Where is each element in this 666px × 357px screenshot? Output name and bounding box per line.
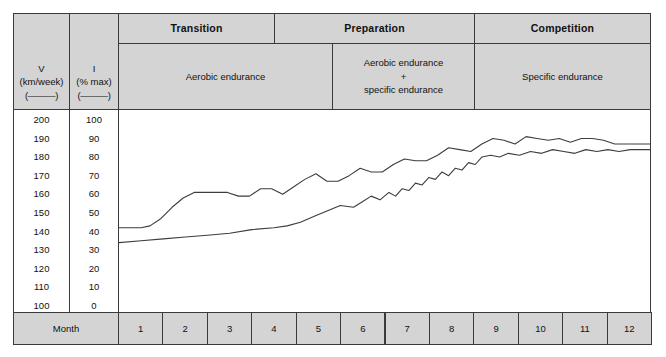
month-row: Month 123456789101112 [13,312,651,345]
axis-header-v-unit: (km/week) [20,75,64,89]
axis-tick-v-120: 120 [14,262,69,273]
month-cell-4: 4 [251,312,296,345]
month-cell-10: 10 [518,312,563,345]
period-transition: Transition [118,13,275,44]
axis-tick-i-0: 0 [70,300,118,311]
axis-tick-v-130: 130 [14,244,69,255]
header-grid: V (km/week) (———) I (% max) (———) Transi… [13,13,651,110]
axis-tick-v-200: 200 [14,114,69,125]
month-cell-7: 7 [385,312,430,345]
axis-header-v: V (km/week) (———) [13,13,70,110]
axis-tick-v-170: 170 [14,169,69,180]
month-cell-5: 5 [296,312,341,345]
focus-specific-endurance: Specific endurance [474,43,651,110]
axis-tick-i-10: 10 [70,281,118,292]
chart-svg [119,110,650,312]
month-cell-6: 6 [340,312,385,345]
axis-header-v-marker: (———) [25,89,58,103]
axis-column-i: 1009080706050403020100 [69,109,119,313]
axis-tick-v-100: 100 [14,300,69,311]
series-line-v [119,137,650,228]
axis-column-v: 200190180170160150140130120110100 [13,109,70,313]
focus-aerobic-plus-specific: Aerobic endurance + specific endurance [332,43,475,110]
axis-tick-i-100: 100 [70,114,118,125]
axis-tick-i-20: 20 [70,262,118,273]
month-cell-12: 12 [607,312,652,345]
axis-header-v-name: V [38,62,44,76]
axis-header-i: I (% max) (———) [69,13,119,110]
axis-tick-i-60: 60 [70,188,118,199]
focus-aerobic-endurance: Aerobic endurance [118,43,333,110]
month-cell-11: 11 [562,312,607,345]
axis-tick-i-30: 30 [70,244,118,255]
figure-root: V (km/week) (———) I (% max) (———) Transi… [0,0,666,357]
axis-tick-v-150: 150 [14,207,69,218]
axis-tick-v-180: 180 [14,151,69,162]
period-competition: Competition [474,13,651,44]
month-cell-9: 9 [473,312,518,345]
axis-tick-i-40: 40 [70,225,118,236]
month-cell-3: 3 [207,312,252,345]
axis-tick-i-50: 50 [70,207,118,218]
period-preparation: Preparation [274,13,475,44]
axis-tick-v-110: 110 [14,281,69,292]
axis-tick-v-140: 140 [14,225,69,236]
axis-tick-i-90: 90 [70,132,118,143]
month-row-label: Month [13,312,119,345]
month-cell-8: 8 [429,312,474,345]
series-line-i [119,150,650,243]
month-cell-1: 1 [118,312,163,345]
chart-plot-area [118,109,651,313]
axis-tick-i-70: 70 [70,169,118,180]
axis-tick-v-190: 190 [14,132,69,143]
month-cell-2: 2 [162,312,207,345]
axis-tick-i-80: 80 [70,151,118,162]
axis-header-i-unit: (% max) [76,75,111,89]
axis-header-i-name: I [93,62,96,76]
axis-tick-v-160: 160 [14,188,69,199]
axis-header-i-marker: (———) [78,89,111,103]
